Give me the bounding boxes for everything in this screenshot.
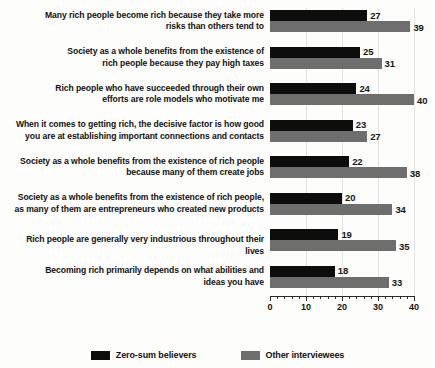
category-label: Rich people are generally very industrio… <box>6 234 264 257</box>
category-label-line: Rich people who have succeeded through t… <box>6 83 264 94</box>
bar-value-label: 23 <box>356 119 366 130</box>
category-label-line: When it comes to getting rich, the decis… <box>6 119 264 130</box>
x-axis-tick <box>335 296 336 299</box>
bar-value-label: 22 <box>352 156 362 167</box>
x-axis-tick <box>378 296 379 301</box>
x-axis-tick-label: 30 <box>373 302 383 312</box>
x-axis-tick <box>349 296 350 299</box>
bar-value-label: 24 <box>359 83 369 94</box>
bar-other-interviewees <box>270 131 367 142</box>
x-axis-tick <box>356 296 357 299</box>
bar-row: 2034 <box>270 193 414 217</box>
legend-swatch <box>91 351 110 360</box>
bar-other-interviewees <box>270 167 407 178</box>
bar-zero-sum-believers <box>270 229 338 240</box>
bar-other-interviewees <box>270 204 392 215</box>
category-label-line: Society as a whole benefits from the exi… <box>6 156 264 167</box>
bar-row: 1833 <box>270 266 414 290</box>
category-label-line: Becoming rich primarily depends on what … <box>6 265 264 276</box>
bar-other-interviewees <box>270 94 414 105</box>
x-axis-tick <box>313 296 314 299</box>
x-axis-tick <box>328 296 329 299</box>
bar-row: 2327 <box>270 120 414 144</box>
bar-value-label: 39 <box>413 22 423 33</box>
bar-row: 2440 <box>270 83 414 107</box>
x-axis-tick-label: 0 <box>267 302 272 312</box>
category-label: Rich people who have succeeded through t… <box>6 83 264 106</box>
bar-value-label: 20 <box>345 192 355 203</box>
legend-item: Other interviewees <box>241 350 345 360</box>
gridline-40 <box>414 8 415 296</box>
bar-value-label: 31 <box>385 58 395 69</box>
bar-other-interviewees <box>270 240 396 251</box>
bar-value-label: 27 <box>370 131 380 142</box>
bar-value-label: 27 <box>370 10 380 21</box>
bar-zero-sum-believers <box>270 83 356 94</box>
legend-label: Zero-sum believers <box>116 350 197 360</box>
category-label-line: Many rich people become rich because the… <box>6 10 264 21</box>
bar-row: 2739 <box>270 10 414 34</box>
category-label: Society as a whole benefits from the exi… <box>6 46 264 69</box>
category-label-line: you are at establishing important connec… <box>6 131 264 142</box>
legend-label: Other interviewees <box>266 350 345 360</box>
category-label: Society as a whole benefits from the exi… <box>6 156 264 179</box>
bar-value-label: 19 <box>341 229 351 240</box>
bar-other-interviewees <box>270 21 410 32</box>
x-axis-tick <box>385 296 386 299</box>
bar-value-label: 25 <box>363 46 373 57</box>
x-axis-tick <box>342 296 343 301</box>
x-axis-tick <box>407 296 408 299</box>
plot-area: 27392531244023272238203419351833 <box>270 8 414 296</box>
bar-zero-sum-believers <box>270 47 360 58</box>
bar-row: 2531 <box>270 47 414 71</box>
category-label: When it comes to getting rich, the decis… <box>6 119 264 142</box>
bar-value-label: 33 <box>392 277 402 288</box>
x-axis-tick-label: 40 <box>409 302 419 312</box>
category-axis-labels: Many rich people become rich because the… <box>0 8 264 296</box>
legend-item: Zero-sum believers <box>91 350 197 360</box>
x-axis-tick <box>364 296 365 299</box>
category-label-line: rich people because they pay high taxes <box>6 58 264 69</box>
bar-other-interviewees <box>270 58 382 69</box>
category-label-line: Society as a whole benefits from the exi… <box>6 192 264 203</box>
x-axis: 010203040 <box>270 296 414 320</box>
bar-row: 2238 <box>270 156 414 180</box>
x-axis-tick-label: 10 <box>301 302 311 312</box>
legend-swatch <box>241 351 260 360</box>
chart-legend: Zero-sum believersOther interviewees <box>0 348 435 362</box>
x-axis-tick <box>277 296 278 299</box>
x-axis-tick-label: 20 <box>337 302 347 312</box>
x-axis-tick <box>392 296 393 299</box>
bar-value-label: 18 <box>338 265 348 276</box>
x-axis-tick <box>292 296 293 299</box>
bar-chart: Many rich people become rich because the… <box>0 0 435 368</box>
bar-zero-sum-believers <box>270 266 335 277</box>
bar-value-label: 40 <box>417 95 427 106</box>
x-axis-tick <box>320 296 321 299</box>
category-label-line: efforts are role models who motivate me <box>6 94 264 105</box>
category-label: Many rich people become rich because the… <box>6 10 264 33</box>
bar-other-interviewees <box>270 277 389 288</box>
category-label-line: ideas you have <box>6 277 264 288</box>
x-axis-tick <box>299 296 300 299</box>
x-axis-tick <box>400 296 401 299</box>
bar-value-label: 38 <box>410 168 420 179</box>
category-label-line: Society as a whole benefits from the exi… <box>6 46 264 57</box>
category-label-line: risks than others tend to <box>6 21 264 32</box>
bar-value-label: 34 <box>395 204 405 215</box>
category-label-line: because many of them create jobs <box>6 167 264 178</box>
bar-zero-sum-believers <box>270 10 367 21</box>
x-axis-tick <box>284 296 285 299</box>
category-label-line: Rich people are generally very industrio… <box>6 234 264 257</box>
bar-row: 1935 <box>270 229 414 253</box>
category-label-line: as many of them are entrepreneurs who cr… <box>6 204 264 215</box>
category-label: Becoming rich primarily depends on what … <box>6 265 264 288</box>
x-axis-tick <box>270 296 271 301</box>
bar-zero-sum-believers <box>270 193 342 204</box>
category-label: Society as a whole benefits from the exi… <box>6 192 264 215</box>
bar-value-label: 35 <box>399 241 409 252</box>
x-axis-tick <box>414 296 415 301</box>
x-axis-tick <box>371 296 372 299</box>
bar-zero-sum-believers <box>270 120 353 131</box>
x-axis-tick <box>306 296 307 301</box>
